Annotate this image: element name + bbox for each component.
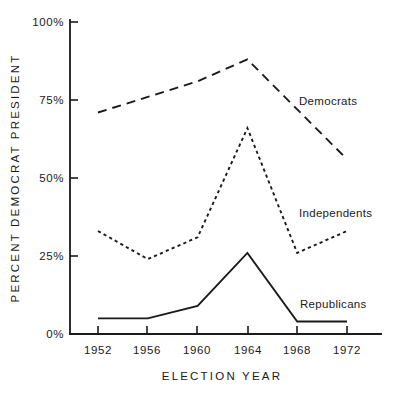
x-axis-ticks: [98, 326, 347, 334]
x-tick-label-1968: 1968: [283, 344, 311, 356]
y-tick-label-50: 50%: [39, 172, 64, 184]
chart-page: 100% 75% 50% 25% 0% 1952 1956 1960 1964 …: [0, 0, 397, 393]
series-label-independents: Independents: [299, 207, 372, 219]
series-label-republicans: Republicans: [300, 298, 367, 310]
y-axis-ticks: [70, 22, 78, 256]
x-axis-title: ELECTION YEAR: [162, 370, 282, 382]
y-tick-label-0: 0%: [46, 328, 64, 340]
x-tick-label-1964: 1964: [234, 344, 262, 356]
y-tick-label-75: 75%: [39, 94, 64, 106]
line-chart: 100% 75% 50% 25% 0% 1952 1956 1960 1964 …: [0, 0, 397, 393]
y-tick-label-100: 100%: [32, 16, 64, 28]
y-axis-title: PERCENT DEMOCRAT PRESIDENT: [9, 54, 21, 303]
series-line-republicans: [98, 253, 347, 322]
x-tick-label-1952: 1952: [84, 344, 112, 356]
series-line-independents: [98, 128, 347, 259]
series-line-democrats: [98, 59, 347, 159]
x-tick-label-1956: 1956: [133, 344, 161, 356]
y-tick-label-25: 25%: [39, 250, 64, 262]
x-tick-label-1960: 1960: [183, 344, 211, 356]
series-label-democrats: Democrats: [299, 95, 357, 107]
x-tick-label-1972: 1972: [333, 344, 361, 356]
